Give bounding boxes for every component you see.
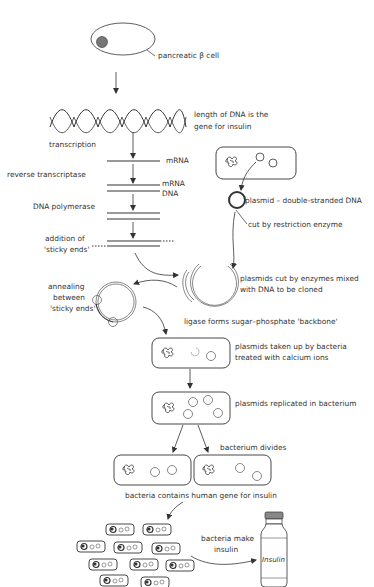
- annealing-label-line3: 'sticky ends': [50, 304, 95, 313]
- bacteria-colony: [77, 524, 194, 587]
- annealing-label-line1: annealing: [48, 282, 85, 291]
- annealed-plasmid-icon: [93, 282, 137, 327]
- pancreatic-cell: pancreatic β cell: [91, 23, 219, 60]
- sticky-label-line1: addition of: [45, 234, 85, 243]
- insulin-bottle-icon: Insulin: [261, 512, 287, 587]
- mixed-label-line1: plasmids cut by enzymes mixed: [240, 274, 359, 283]
- dna-helix-icon: [50, 110, 186, 133]
- source-bacterium: [216, 147, 296, 179]
- sticky-label-line2: 'sticky ends': [44, 245, 89, 254]
- gene-label-line1: length of DNA is the: [194, 110, 269, 119]
- genetic-engineering-diagram: pancreatic β cell length of DNA is the g…: [0, 0, 374, 587]
- recipient-bacterium: [152, 338, 230, 368]
- dna-label: DNA: [162, 189, 178, 198]
- plasmid-label: plasmid – double-stranded DNA: [245, 196, 362, 205]
- mrna2-label: mRNA: [162, 179, 185, 188]
- contains-label: bacteria contains human gene for insulin: [125, 491, 277, 500]
- bottle-label: Insulin: [262, 556, 285, 564]
- daughter-bacterium-right: [194, 455, 271, 485]
- make-label-line1: bacteria make: [201, 534, 254, 543]
- dna-polymerase-label: DNA polymerase: [33, 202, 95, 211]
- make-label-line2: insulin: [214, 545, 238, 554]
- uptake-label-line2: treated with calcium ions: [235, 353, 329, 362]
- cut-label: cut by restriction enzyme: [248, 220, 343, 229]
- replicating-bacterium: [152, 392, 230, 424]
- transcription-label: transcription: [49, 140, 96, 149]
- cell-label: pancreatic β cell: [158, 51, 219, 60]
- mrna-label: mRNA: [166, 156, 189, 165]
- ligase-label: ligase forms sugar–phosphate 'backbone': [184, 317, 338, 326]
- uptake-label-line1: plasmids taken up by bacteria: [235, 342, 347, 351]
- replicated-label: plasmids replicated in bacterium: [235, 399, 356, 408]
- gene-label-line2: gene for insulin: [194, 122, 252, 131]
- plasmid-icon: [229, 192, 245, 208]
- daughter-bacterium-left: [114, 455, 191, 485]
- nucleus-icon: [97, 37, 108, 48]
- annealing-label-line2: between: [53, 293, 85, 302]
- cut-plasmid-icon: [183, 264, 239, 306]
- mixed-label-line2: with DNA to be cloned: [240, 285, 323, 294]
- reverse-transcriptase-label: reverse transcriptase: [7, 170, 86, 179]
- divides-label: bacterium divides: [220, 443, 286, 452]
